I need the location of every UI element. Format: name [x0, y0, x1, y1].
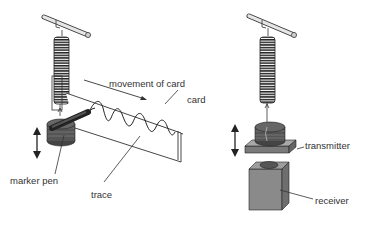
up-down-arrow-left: [33, 127, 41, 159]
support-rod-left: [44, 17, 91, 38]
electromagnetic-apparatus-diagram: movement of card card marker pen trace: [0, 0, 367, 225]
receiver-box: [249, 162, 289, 211]
label-transmitter: transmitter: [305, 140, 350, 151]
label-marker-pen: marker pen: [10, 175, 58, 186]
up-down-arrow-right: [231, 124, 239, 157]
spring-right: [260, 37, 275, 103]
label-movement-of-card: movement of card: [109, 78, 185, 89]
support-rod-right: [249, 16, 297, 38]
right-apparatus: transmitter receiver: [231, 16, 350, 210]
label-trace: trace: [91, 189, 112, 200]
left-apparatus: movement of card card marker pen trace: [10, 17, 205, 200]
transmitter-coil: [255, 122, 285, 146]
label-card: card: [187, 94, 205, 105]
label-receiver: receiver: [315, 195, 349, 206]
